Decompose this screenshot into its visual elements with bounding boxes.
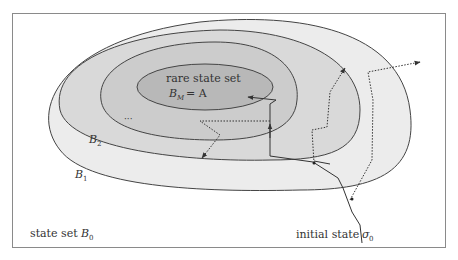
b0-label-sub: 0 — [89, 234, 93, 242]
b1-label-b: B — [74, 168, 83, 181]
rare-set-formula-b: B — [168, 87, 177, 100]
nested-state-set-diagram: rare state set B M = A ··· B 2 B 1 state… — [0, 0, 458, 260]
rare-set-formula-sub: M — [176, 94, 185, 102]
ellipsis-label: ··· — [124, 114, 133, 124]
b0-label-text: state set — [30, 227, 78, 240]
b2-label-b: B — [88, 133, 97, 146]
b0-label-b: B — [80, 227, 89, 240]
b1-label-sub: 1 — [83, 175, 87, 183]
junction-dot — [351, 198, 354, 201]
rare-set-formula-rhs: = A — [186, 87, 208, 100]
initial-state-sub: 0 — [369, 235, 373, 243]
b2-label-sub: 2 — [97, 140, 101, 148]
junction-dot — [313, 162, 316, 165]
rare-set-title: rare state set — [166, 72, 241, 85]
initial-state-text: initial state — [296, 228, 359, 241]
